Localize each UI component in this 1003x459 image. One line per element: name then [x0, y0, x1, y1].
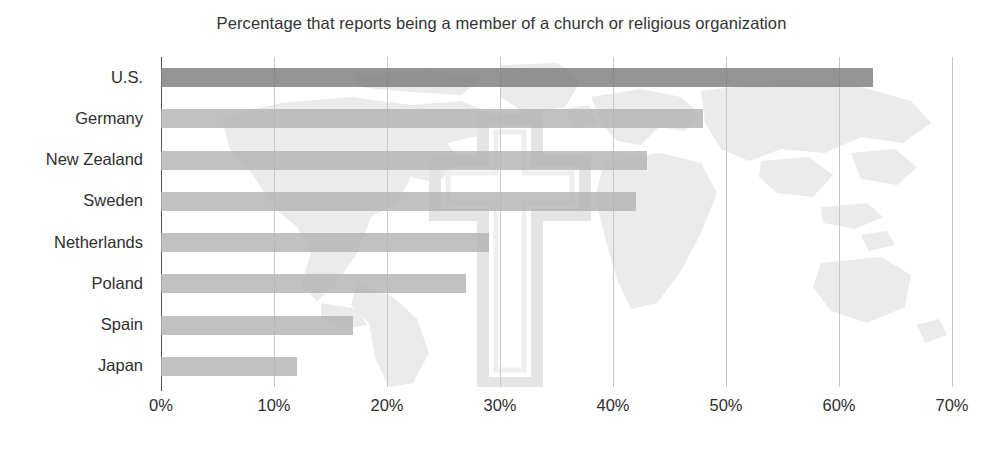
bar [161, 109, 703, 128]
y-axis-category-label: Germany [75, 109, 143, 128]
y-axis-category-label: U.S. [111, 68, 143, 87]
bar-chart: Percentage that reports being a member o… [0, 0, 1003, 459]
y-axis-category-label: Poland [92, 274, 143, 293]
plot-area [161, 57, 952, 387]
bar [161, 357, 297, 376]
x-axis-tick-label: 50% [709, 396, 742, 415]
x-axis-tick-label: 0% [149, 396, 173, 415]
bar [161, 192, 636, 211]
bar [161, 68, 873, 87]
x-axis-tick-label: 40% [596, 396, 629, 415]
x-axis-tick-labels: 0%10%20%30%40%50%60%70% [161, 396, 952, 424]
x-axis-tick-label: 30% [483, 396, 516, 415]
bar [161, 233, 489, 252]
gridline [952, 57, 953, 387]
y-axis-category-label: Japan [98, 356, 143, 375]
bar [161, 274, 466, 293]
bar [161, 151, 647, 170]
x-axis-tick-label: 60% [822, 396, 855, 415]
y-axis-category-label: Netherlands [54, 233, 143, 252]
x-axis-tick-label: 10% [257, 396, 290, 415]
y-axis-category-labels: U.S.GermanyNew ZealandSwedenNetherlandsP… [0, 57, 152, 387]
bar [161, 316, 353, 335]
y-axis-category-label: New Zealand [46, 150, 143, 169]
x-axis-tick-label: 20% [370, 396, 403, 415]
y-axis-category-label: Spain [101, 315, 143, 334]
bars [161, 57, 952, 387]
chart-title: Percentage that reports being a member o… [0, 14, 1003, 33]
y-axis-category-label: Sweden [83, 191, 143, 210]
x-axis-tick-label: 70% [935, 396, 968, 415]
